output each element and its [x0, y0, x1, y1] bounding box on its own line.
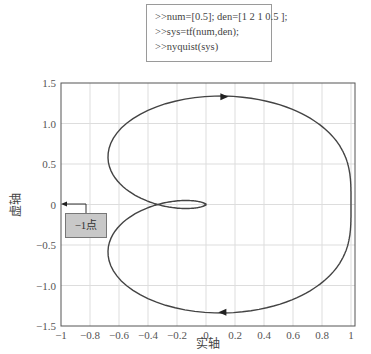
x-tick-label: −0.2 — [167, 329, 187, 341]
callout-arrow-icon — [61, 202, 67, 207]
x-tick-label: −0.8 — [80, 329, 100, 341]
x-tick-label: 1 — [348, 329, 354, 341]
arrow-right-icon — [220, 93, 228, 100]
minus-one-point-callout: −1点 — [65, 213, 107, 238]
y-tick-label: −1.0 — [36, 280, 56, 292]
y-tick-label: −0.5 — [36, 239, 56, 251]
callout-leader-line — [64, 204, 86, 213]
x-tick-label: −0.4 — [138, 329, 158, 341]
x-tick-label: −1 — [55, 329, 67, 341]
x-tick-label: 0.8 — [315, 329, 329, 341]
x-tick-label: 0.6 — [286, 329, 300, 341]
y-tick-label: 0 — [51, 199, 57, 211]
x-tick-label: −0.6 — [109, 329, 129, 341]
y-tick-label: 0.5 — [42, 158, 56, 170]
y-axis-label: 虚轴 — [8, 193, 23, 217]
x-tick-label: 0.4 — [257, 329, 271, 341]
arrow-left-icon — [218, 309, 226, 316]
nyquist-plot: −1−0.8−0.6−0.4−0.200.20.40.60.811.51.00.… — [0, 0, 371, 354]
y-tick-label: −1.5 — [36, 320, 56, 332]
y-tick-label: 1.5 — [42, 77, 56, 89]
x-axis-label: 实轴 — [196, 336, 220, 351]
x-tick-label: 0.2 — [228, 329, 242, 341]
y-tick-label: 1.0 — [42, 118, 56, 130]
